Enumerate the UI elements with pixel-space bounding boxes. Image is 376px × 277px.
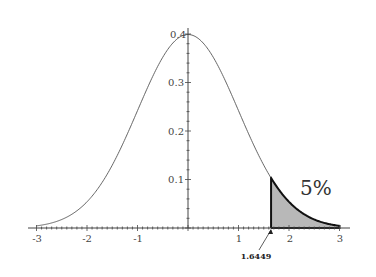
x-tick-label: -2 (82, 233, 92, 244)
x-tick-label: -1 (133, 233, 143, 244)
x-tick-label: 3 (337, 233, 343, 244)
percent-annotation: 5% (300, 176, 332, 200)
x-tick-label: 1 (236, 233, 242, 244)
y-tick-label: 0.3 (168, 77, 184, 88)
arrow-head-icon (268, 229, 273, 234)
critical-value-label: 1.6449 (241, 251, 272, 261)
x-tick-label: 2 (287, 233, 293, 244)
y-tick-label: 0.4 (170, 29, 186, 40)
y-tick-label: 0.2 (168, 126, 184, 137)
normal-distribution-chart: -3 -2 -1 1 2 3 0.1 0.2 0.3 0.4 5% 1.6449 (0, 0, 376, 277)
x-tick-label: -3 (32, 233, 42, 244)
y-tick-label: 0.1 (168, 174, 184, 185)
